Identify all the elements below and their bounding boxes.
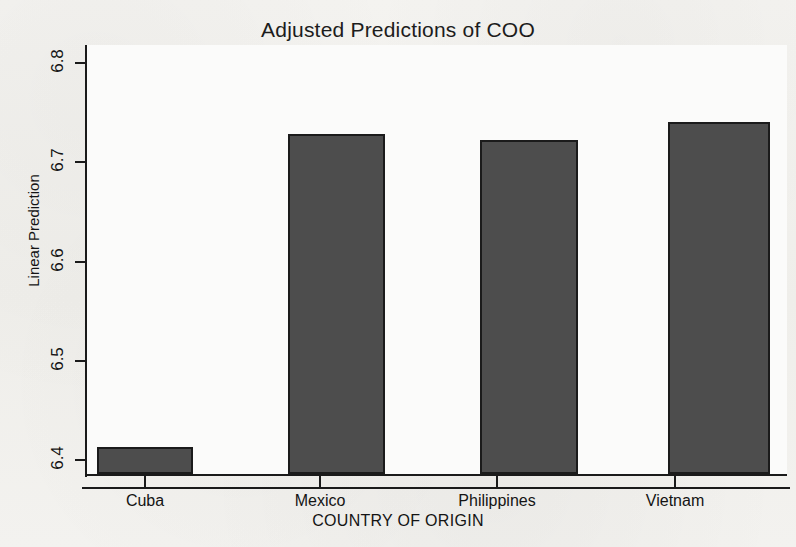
bar: [97, 447, 193, 474]
y-axis-tick-label: 6.5: [0, 349, 70, 369]
chart-title: Adjusted Predictions of COO: [0, 18, 796, 42]
x-axis-tick-label: Mexico: [295, 492, 346, 510]
plot-frame-bottom-line: [85, 474, 787, 476]
x-axis-tick-mark: [144, 476, 146, 488]
bar: [288, 134, 385, 474]
y-axis-tick-label-text: 6.7: [48, 148, 68, 172]
x-axis-tick-label: Vietnam: [646, 492, 704, 510]
x-axis-tick-label: Philippines: [458, 492, 535, 510]
y-axis-tick-mark: [75, 261, 86, 263]
y-axis-tick-label-text: 6.6: [48, 248, 68, 272]
bar: [480, 140, 578, 474]
y-axis-tick-mark: [75, 161, 86, 163]
y-axis-tick-label-text: 6.5: [48, 347, 68, 371]
x-axis-tick-mark: [496, 476, 498, 488]
y-axis-title: Linear Prediction: [25, 136, 42, 326]
y-axis-tick-mark: [75, 360, 86, 362]
y-axis-tick-label-text: 6.4: [48, 446, 68, 470]
y-axis-tick-label: 6.8: [0, 51, 70, 71]
x-axis-tick-mark: [319, 476, 321, 488]
y-axis-tick-mark: [75, 62, 86, 64]
x-axis-tick-label: Cuba: [126, 492, 164, 510]
x-axis-title: COUNTRY OF ORIGIN: [0, 512, 796, 530]
y-axis-tick-label-text: 6.8: [48, 49, 68, 73]
bar: [668, 122, 770, 474]
x-axis-line: [82, 487, 790, 489]
y-axis-tick-mark: [75, 459, 86, 461]
y-axis-tick-label: 6.4: [0, 448, 70, 468]
x-axis-tick-mark: [674, 476, 676, 488]
